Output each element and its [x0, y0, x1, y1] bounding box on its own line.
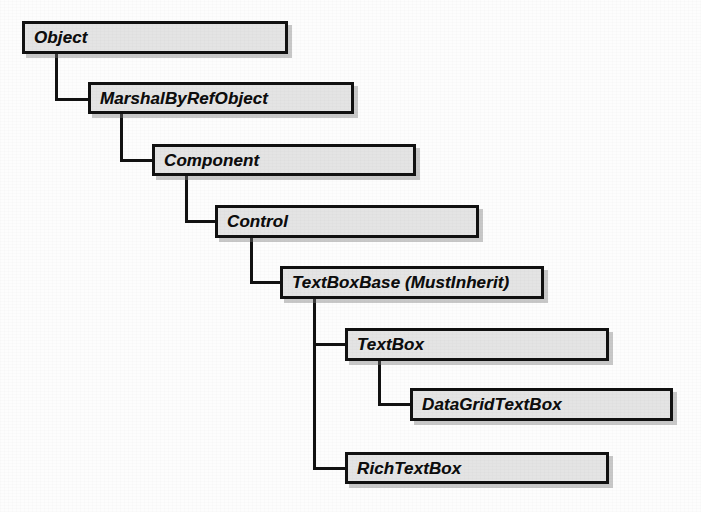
- seg-richtextbox-h: [313, 467, 348, 470]
- class-box-label-component: Component: [155, 152, 259, 169]
- class-box-textbox[interactable]: TextBox: [345, 328, 609, 361]
- class-box-richtextbox[interactable]: RichTextBox: [345, 452, 609, 484]
- seg-datagrid-h: [378, 403, 413, 406]
- class-box-component[interactable]: Component: [152, 144, 416, 176]
- class-box-label-textbox: TextBox: [348, 336, 424, 353]
- seg-datagrid-v: [378, 360, 381, 405]
- class-box-datagridtextbox[interactable]: DataGridTextBox: [410, 388, 673, 421]
- scan-grain-overlay: [0, 0, 701, 512]
- seg-object-h: [55, 98, 91, 101]
- class-box-textboxbase[interactable]: TextBoxBase (MustInherit): [280, 266, 544, 299]
- seg-marshal-v: [120, 113, 123, 161]
- class-box-label-datagridtextbox: DataGridTextBox: [413, 396, 562, 413]
- seg-control-h: [250, 281, 283, 284]
- class-box-control[interactable]: Control: [215, 205, 479, 238]
- class-box-object[interactable]: Object: [22, 21, 288, 54]
- class-box-label-textboxbase: TextBoxBase (MustInherit): [283, 274, 509, 291]
- class-box-label-object: Object: [25, 29, 88, 46]
- class-box-label-marshalbyrefobject: MarshalByRefObject: [91, 90, 268, 107]
- seg-object-v: [55, 53, 58, 99]
- seg-marshal-h: [120, 159, 155, 162]
- seg-component-h: [185, 220, 218, 223]
- class-box-label-control: Control: [218, 213, 288, 230]
- class-box-label-richtextbox: RichTextBox: [348, 460, 461, 477]
- class-hierarchy-diagram: ObjectMarshalByRefObjectComponentControl…: [0, 0, 701, 512]
- seg-component-v: [185, 176, 188, 222]
- class-box-marshalbyrefobject[interactable]: MarshalByRefObject: [88, 82, 354, 114]
- seg-control-v: [250, 237, 253, 283]
- seg-textbox-h: [313, 343, 348, 346]
- seg-textboxbase-trunk-v: [313, 298, 316, 470]
